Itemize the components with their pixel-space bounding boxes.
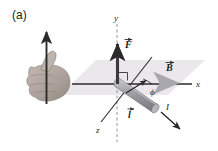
- current-arrow: I: [161, 102, 180, 129]
- z-axis-label: z: [95, 125, 100, 135]
- current-label: I: [165, 102, 170, 112]
- right-hand-rule-hand: [27, 32, 70, 104]
- x-axis-label: x: [195, 79, 200, 89]
- y-axis-label: y: [113, 13, 118, 23]
- figure-panel-a: (a): [0, 0, 218, 151]
- force-vector-label: F: [124, 39, 132, 50]
- physics-diagram-svg: y x z B l ϕ: [0, 0, 218, 151]
- magnetic-field-label: B: [165, 62, 173, 73]
- length-vector-label: l: [128, 109, 131, 120]
- angle-phi-label: ϕ: [150, 87, 155, 97]
- panel-label: (a): [12, 8, 27, 22]
